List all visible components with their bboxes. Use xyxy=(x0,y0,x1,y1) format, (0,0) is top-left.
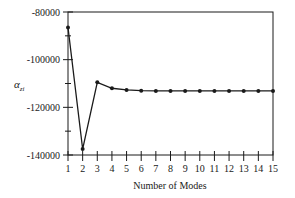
y-tick-label: -140000 xyxy=(27,150,60,161)
y-axis-label: αzi xyxy=(14,78,25,93)
x-tick-label: 8 xyxy=(168,163,173,174)
data-point xyxy=(139,89,143,93)
x-tick-label: 7 xyxy=(153,163,158,174)
x-tick-label: 14 xyxy=(253,163,263,174)
data-point xyxy=(212,89,216,93)
y-tick-label: -100000 xyxy=(27,54,60,65)
x-tick-label: 1 xyxy=(66,163,71,174)
x-tick-label: 6 xyxy=(139,163,144,174)
data-point xyxy=(125,88,129,92)
data-series xyxy=(66,25,275,151)
x-tick-label: 13 xyxy=(239,163,249,174)
data-point xyxy=(81,147,85,151)
y-tick-label: -80000 xyxy=(32,7,60,18)
x-axis: 123456789101112131415 xyxy=(66,151,279,174)
data-point xyxy=(183,89,187,93)
x-tick-label: 11 xyxy=(210,163,220,174)
x-tick-label: 2 xyxy=(80,163,85,174)
data-point xyxy=(198,89,202,93)
data-point xyxy=(66,25,70,29)
x-tick-label: 3 xyxy=(95,163,100,174)
x-axis-label: Number of Modes xyxy=(133,180,206,191)
x-tick-label: 9 xyxy=(183,163,188,174)
x-tick-label: 4 xyxy=(109,163,114,174)
data-point xyxy=(242,89,246,93)
data-point xyxy=(256,89,260,93)
data-point xyxy=(227,89,231,93)
series-line xyxy=(68,27,273,149)
data-point xyxy=(271,89,275,93)
data-point xyxy=(169,89,173,93)
data-point xyxy=(95,80,99,84)
y-axis: -80000-100000-120000-140000 xyxy=(27,7,73,161)
x-tick-label: 5 xyxy=(124,163,129,174)
x-tick-label: 12 xyxy=(224,163,234,174)
data-point xyxy=(110,86,114,90)
y-tick-label: -120000 xyxy=(27,102,60,113)
line-chart: -80000-100000-120000-140000 123456789101… xyxy=(0,0,295,198)
x-tick-label: 15 xyxy=(268,163,278,174)
data-point xyxy=(154,89,158,93)
x-tick-label: 10 xyxy=(195,163,205,174)
